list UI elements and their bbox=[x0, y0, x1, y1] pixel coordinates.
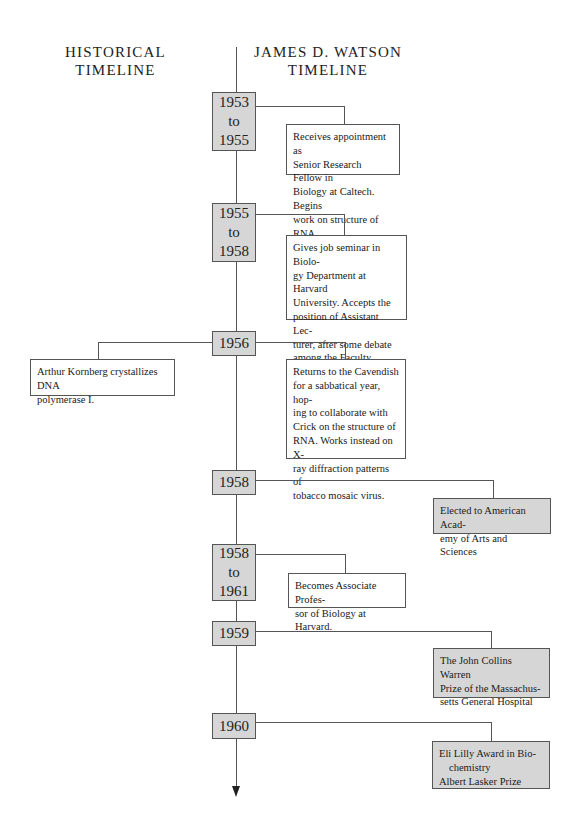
year-label: 1961 bbox=[213, 582, 255, 601]
heading-line: HISTORICAL bbox=[48, 43, 183, 61]
connector bbox=[256, 554, 345, 555]
event-text-line: tobacco mosaic virus. bbox=[293, 489, 399, 503]
event-text-line: position of Assistant Lec- bbox=[293, 310, 400, 338]
year-box-1953-1955: 1953 to 1955 bbox=[212, 92, 256, 151]
event-box-cavendish: Returns to the Cavendish for a sabbatica… bbox=[286, 359, 406, 459]
connector bbox=[98, 342, 212, 343]
year-label: 1959 bbox=[213, 624, 255, 643]
year-box-1958: 1958 bbox=[212, 470, 256, 495]
event-text-line: Returns to the Cavendish bbox=[293, 365, 399, 379]
year-label: to bbox=[213, 223, 255, 242]
award-text-line: Prize of the Massachus- bbox=[440, 682, 543, 696]
award-box-eli-lilly-lasker: Eli Lilly Award in Bio- chemistry Albert… bbox=[432, 741, 550, 789]
event-text-line: RNA. Works instead on X- bbox=[293, 434, 399, 462]
connector bbox=[491, 631, 492, 648]
timeline-axis bbox=[236, 47, 237, 787]
event-box-associate-professor: Becomes Associate Profes- sor of Biology… bbox=[288, 573, 406, 608]
connector bbox=[256, 214, 344, 215]
event-box-harvard-seminar: Gives job seminar in Biolo- gy Departmen… bbox=[286, 235, 407, 320]
event-text-line: polymerase I. bbox=[37, 393, 168, 407]
event-text-line: Biology at Caltech. Begins bbox=[293, 185, 393, 213]
connector bbox=[344, 214, 345, 235]
arrow-down-icon bbox=[232, 786, 240, 797]
year-label: to bbox=[213, 563, 255, 582]
award-text-line: chemistry bbox=[439, 761, 543, 775]
connector bbox=[256, 631, 491, 632]
year-label: 1958 bbox=[213, 544, 255, 563]
year-label: to bbox=[213, 112, 255, 131]
year-label: 1955 bbox=[213, 131, 255, 150]
event-text-line: Becomes Associate Profes- bbox=[295, 579, 399, 607]
event-text-line: University. Accepts the bbox=[293, 296, 400, 310]
connector bbox=[491, 722, 492, 741]
heading-line: TIMELINE bbox=[248, 61, 408, 79]
award-text-line: emy of Arts and Sciences bbox=[440, 532, 544, 560]
year-box-1955-1958: 1955 to 1958 bbox=[212, 203, 256, 262]
event-text-line: gy Department at Harvard bbox=[293, 269, 400, 297]
year-label: 1960 bbox=[213, 717, 255, 736]
event-text-line: Senior Research Fellow in bbox=[293, 158, 393, 186]
event-text-line: Receives appointment as bbox=[293, 130, 393, 158]
connector bbox=[256, 106, 344, 107]
historical-event-box-kornberg: Arthur Kornberg crystallizes DNA polymer… bbox=[30, 359, 175, 396]
historical-timeline-heading: HISTORICAL TIMELINE bbox=[48, 43, 183, 79]
connector bbox=[493, 480, 494, 498]
award-text-line: setts General Hospital bbox=[440, 695, 543, 709]
event-text-line: ing to collaborate with bbox=[293, 406, 399, 420]
year-box-1956: 1956 bbox=[212, 331, 256, 356]
event-text-line: for a sabbatical year, hop- bbox=[293, 379, 399, 407]
connector bbox=[256, 342, 345, 343]
event-text-line: turer, after some debate bbox=[293, 338, 400, 352]
heading-line: TIMELINE bbox=[48, 61, 183, 79]
award-text-line: Eli Lilly Award in Bio- bbox=[439, 747, 543, 761]
year-label: 1958 bbox=[213, 242, 255, 261]
year-label: 1955 bbox=[213, 204, 255, 223]
event-text-line: ray diffraction patterns of bbox=[293, 462, 399, 490]
connector bbox=[256, 722, 491, 723]
year-label: 1956 bbox=[213, 334, 255, 353]
event-text-line: Crick on the structure of bbox=[293, 420, 399, 434]
connector bbox=[256, 480, 493, 481]
award-text-line: Elected to American Acad- bbox=[440, 504, 544, 532]
year-box-1959: 1959 bbox=[212, 621, 256, 646]
connector bbox=[345, 554, 346, 573]
year-box-1958-1961: 1958 to 1961 bbox=[212, 544, 256, 601]
year-label: 1958 bbox=[213, 473, 255, 492]
award-text-line: Albert Lasker Prize bbox=[439, 775, 543, 789]
year-label: 1953 bbox=[213, 93, 255, 112]
heading-line: JAMES D. WATSON bbox=[248, 43, 408, 61]
award-box-american-academy: Elected to American Acad- emy of Arts an… bbox=[433, 498, 551, 534]
event-text-line: Arthur Kornberg crystallizes DNA bbox=[37, 365, 168, 393]
award-box-john-collins-warren: The John Collins Warren Prize of the Mas… bbox=[433, 648, 550, 698]
event-text-line: Gives job seminar in Biolo- bbox=[293, 241, 400, 269]
award-text-line: The John Collins Warren bbox=[440, 654, 543, 682]
watson-timeline-heading: JAMES D. WATSON TIMELINE bbox=[248, 43, 408, 79]
connector bbox=[345, 342, 346, 359]
event-box-caltech: Receives appointment as Senior Research … bbox=[286, 124, 400, 175]
year-box-1960: 1960 bbox=[212, 713, 256, 739]
connector bbox=[98, 342, 99, 359]
connector bbox=[344, 106, 345, 124]
